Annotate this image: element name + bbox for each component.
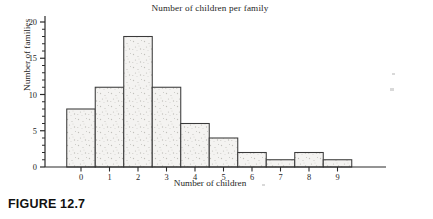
scan-speckle: [392, 73, 395, 75]
x-axis-title: Number of children: [120, 178, 300, 188]
histogram-bar: [209, 138, 238, 167]
histogram-bar: [266, 160, 295, 167]
histogram-bar: [67, 109, 96, 167]
scan-speckle: [390, 88, 394, 91]
histogram-svg: [0, 0, 433, 200]
histogram-bar: [181, 124, 210, 168]
y-axis-title: Number of families: [22, 0, 32, 130]
y-tick-label: 0: [11, 163, 37, 172]
histogram-bar: [295, 153, 324, 168]
x-tick-label: 9: [335, 173, 339, 182]
histogram-bar: [124, 37, 153, 168]
x-tick-label: 8: [307, 173, 311, 182]
histogram-bar: [323, 160, 352, 167]
scan-speckle: [262, 184, 265, 186]
histogram-bar: [95, 87, 124, 167]
figure-caption: FIGURE 12.7: [8, 197, 85, 211]
figure-container: Number of children per family 05101520 0…: [0, 0, 433, 219]
x-tick-label: 1: [107, 173, 111, 182]
histogram-bar: [152, 87, 181, 167]
plot-area: [0, 0, 433, 200]
histogram-bar: [238, 153, 267, 168]
x-tick-label: 0: [79, 173, 83, 182]
bars-group: [67, 37, 352, 168]
